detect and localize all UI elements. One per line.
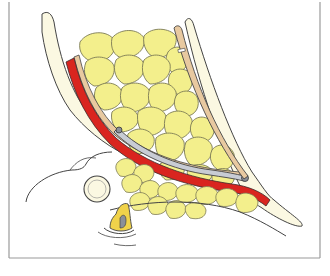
anatomy-illustration xyxy=(0,0,330,276)
left-lower-contour-2 xyxy=(70,158,96,170)
rod-joint-upper xyxy=(116,127,122,133)
illustration-frame xyxy=(0,0,330,276)
small-structure xyxy=(98,203,136,245)
